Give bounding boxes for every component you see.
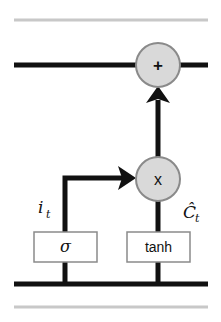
lstm-input-gate-diagram: + x σ tanh i t Ĉ t xyxy=(0,0,221,322)
multiply-icon: x xyxy=(154,171,162,188)
input-gate-connector xyxy=(65,178,128,232)
tanh-gate: tanh xyxy=(127,232,190,262)
plus-icon: + xyxy=(153,56,163,75)
sigma-gate: σ xyxy=(34,232,97,262)
tanh-gate-label: tanh xyxy=(145,239,172,255)
candidate-label: Ĉ t xyxy=(183,202,200,225)
multiply-node: x xyxy=(136,157,180,201)
sigma-gate-label: σ xyxy=(60,237,72,256)
input-gate-label-sub: t xyxy=(46,208,51,221)
input-gate-label: i t xyxy=(38,197,51,221)
candidate-label-sub: t xyxy=(195,212,200,225)
input-gate-label-main: i xyxy=(38,197,43,217)
add-node: + xyxy=(136,43,180,87)
